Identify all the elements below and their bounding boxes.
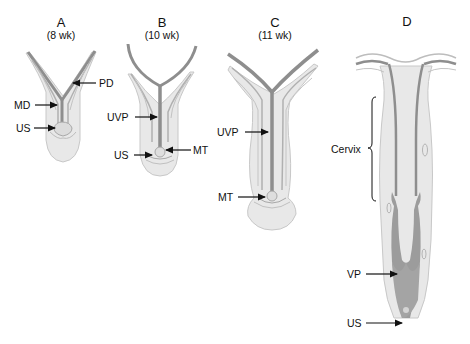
label-mt-b: MT bbox=[193, 144, 208, 156]
panel-b-illustration bbox=[128, 44, 196, 176]
panel-c-illustration bbox=[228, 50, 318, 230]
label-us-a: US bbox=[16, 122, 31, 134]
label-uvp-b: UVP bbox=[107, 111, 129, 123]
diagram-canvas bbox=[0, 0, 470, 344]
label-us-d: US bbox=[347, 317, 362, 329]
label-pd: PD bbox=[99, 77, 114, 89]
label-mt-c: MT bbox=[218, 191, 233, 203]
label-cervix: Cervix bbox=[331, 143, 361, 155]
label-uvp-c: UVP bbox=[217, 126, 239, 138]
panel-a-illustration bbox=[26, 51, 96, 162]
cervix-brace bbox=[368, 97, 376, 201]
label-us-b: US bbox=[114, 149, 129, 161]
label-vp: VP bbox=[347, 268, 361, 280]
panel-d-illustration bbox=[356, 54, 456, 318]
label-md: MD bbox=[14, 99, 30, 111]
